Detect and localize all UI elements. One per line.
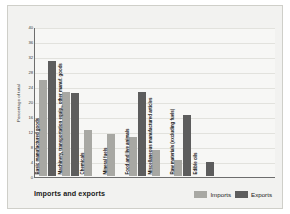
y-axis-tick-label: 32 — [15, 56, 33, 60]
legend-item-exports: Exports — [235, 191, 272, 198]
bar-group: Basic manufactured goods — [39, 28, 57, 176]
bar-group: Machinery, transportation equip., other … — [62, 28, 80, 176]
x-axis-category-label: Edible oils — [193, 152, 198, 174]
y-axis-tick-label: 20 — [15, 101, 33, 105]
x-axis-category-label: Machinery, transportation equip., other … — [58, 63, 63, 174]
plot-area-wrapper: Percentage of total 0481216202428323640 … — [34, 28, 275, 178]
bar-imports[interactable] — [174, 160, 182, 176]
legend-item-imports: Imports — [194, 191, 231, 198]
bar-imports[interactable] — [129, 137, 137, 176]
legend-label-exports: Exports — [251, 191, 272, 198]
bar-exports[interactable] — [183, 115, 191, 177]
y-axis-tick-label: 40 — [15, 26, 33, 30]
x-axis-category-label: Chemicals — [81, 152, 86, 174]
bar-group: Raw materials (excluding fuels) — [174, 28, 192, 176]
bar-imports[interactable] — [84, 130, 92, 177]
x-axis-category-label: Mineral fuels — [103, 147, 108, 174]
bar-group: Food and live animals — [129, 28, 147, 176]
legend-swatch-imports — [194, 191, 207, 198]
chart-title: Imports and exports — [34, 189, 105, 198]
legend-label-imports: Imports — [210, 191, 231, 198]
y-axis-tick-label: 8 — [15, 146, 33, 150]
bar-group: Chemicals — [84, 28, 102, 176]
legend-swatch-exports — [235, 191, 248, 198]
bar-group: Mineral fuels — [107, 28, 125, 176]
x-axis-category-label: Raw materials (excluding fuels) — [171, 108, 176, 174]
y-axis-tick-label: 28 — [15, 71, 33, 75]
y-axis-tick-label: 36 — [15, 41, 33, 45]
y-axis-tick-label: 16 — [15, 116, 33, 120]
bar-exports[interactable] — [138, 92, 146, 176]
plot-area: Basic manufactured goodsMachinery, trans… — [34, 28, 275, 178]
y-axis-tick-label: 4 — [15, 161, 33, 165]
bar-exports[interactable] — [48, 61, 56, 177]
bar-group: Miscellaneous manufactured articles — [152, 28, 170, 176]
x-axis-category-label: Basic manufactured goods — [36, 117, 41, 174]
y-axis-tick-label: 0 — [15, 176, 33, 180]
bar-exports[interactable] — [71, 93, 79, 176]
bar-group: Edible oils — [197, 28, 215, 176]
bar-exports[interactable] — [206, 162, 214, 176]
bar-series-container: Basic manufactured goodsMachinery, trans… — [36, 28, 275, 176]
y-axis-tick-label: 24 — [15, 86, 33, 90]
y-axis-tick-label: 12 — [15, 131, 33, 135]
chart-legend: Imports Exports — [194, 191, 272, 198]
x-axis-category-label: Miscellaneous manufactured articles — [148, 97, 153, 174]
chart-frame: Percentage of total 0481216202428323640 … — [7, 5, 283, 209]
x-axis-category-label: Food and live animals — [126, 128, 131, 174]
bar-imports[interactable] — [39, 80, 47, 176]
